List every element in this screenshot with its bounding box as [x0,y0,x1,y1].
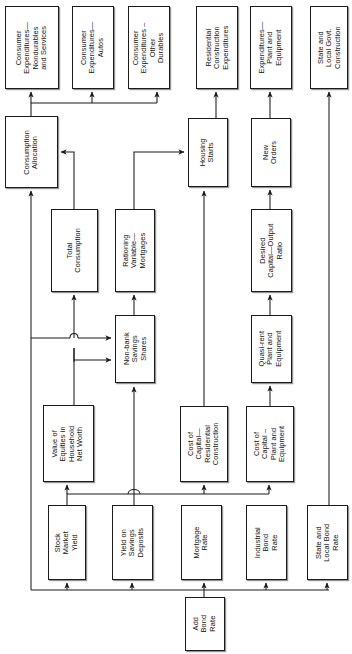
node-label-value_eq: Value of Equities in Household Net Worth [52,425,86,461]
node-res_constr[interactable]: Residential Construction Expenditures [196,6,238,89]
node-label-ind_bond: Industrial Bond Rate [254,527,279,558]
node-housing[interactable]: Housing Starts [188,118,228,187]
node-label-cons_autos: Consumer Expenditures— Autos [80,22,105,74]
node-value_eq[interactable]: Value of Equities in Household Net Worth [43,405,94,482]
wire-bus-hop-arc [128,490,140,495]
node-label-rationing: Rationing Variable— Mortgages [122,233,147,269]
node-label-state_constr: State and Local Govt. Construction [316,26,341,69]
flowchart-canvas: Consumer Expenditures— Nondurables and S… [0,0,352,654]
node-label-res_constr: Residential Construction Expenditures [204,25,229,69]
node-label-coc_res: Cost of Capital— Residential Constructio… [187,423,221,466]
node-quasi_rent[interactable]: Quasi-rent Plant and Equipment [251,315,292,383]
wire-consalloc-bus [31,103,157,116]
node-yield_sav[interactable]: Yield on Savings Deposits [112,505,153,580]
node-cons_other[interactable]: Consumer Expenditures – Other Durables [128,6,170,89]
node-new_orders[interactable]: New Orders [251,118,291,187]
node-label-stock_yield: Stock Market Yield [54,531,79,554]
wire-stockyield-bus [67,494,269,505]
node-cons_nondur[interactable]: Consumer Expenditures— Nondurables and S… [5,6,59,89]
node-state_bond[interactable]: State and Local Bond Rate [307,505,348,580]
node-label-coc_plant: Cost of Capital – Plant and Equipment [253,426,287,462]
node-label-nonbank: Non-bank Savings Shares [122,333,147,366]
node-label-housing: Housing Starts [200,139,217,167]
node-label-cons_alloc: Consumption Allocation [23,130,40,175]
node-total_cons[interactable]: Total Consumption [51,209,98,292]
node-label-quasi_rent: Quasi-rent Plant and Equipment [259,331,284,367]
node-rationing[interactable]: Rationing Variable— Mortgages [115,209,155,292]
node-cons_alloc[interactable]: Consumption Allocation [5,116,58,188]
node-label-exp_plant: Expenditures— Plant and Equipment [258,22,283,74]
node-coc_res[interactable]: Cost of Capital— Residential Constructio… [180,406,228,482]
wire-rationing-to-housing [134,152,184,209]
node-label-cons_other: Consumer Expenditures – Other Durables [132,22,166,73]
node-add_bond[interactable]: Add Bond Rate [185,597,225,651]
node-state_constr[interactable]: State and Local Govt. Construction [310,6,348,89]
node-label-new_orders: New Orders [263,141,280,164]
node-desired_cor[interactable]: Desired Capital—Output Ratio [251,209,292,292]
node-label-yield_sav: Yield on Savings Deposits [120,528,145,558]
node-stock_yield[interactable]: Stock Market Yield [48,505,86,580]
node-label-add_bond: Add Bond Rate [192,615,217,633]
wire-totalcons-to-consalloc [61,152,74,209]
node-exp_plant[interactable]: Expenditures— Plant and Equipment [250,6,292,89]
node-label-desired_cor: Desired Capital—Output Ratio [259,224,284,278]
node-label-total_cons: Total Consumption [66,228,83,273]
node-nonbank[interactable]: Non-bank Savings Shares [115,315,155,383]
node-cons_autos[interactable]: Consumer Expenditures— Autos [72,6,114,89]
wire-hop-arc [70,334,78,339]
node-ind_bond[interactable]: Industrial Bond Rate [246,505,287,580]
node-label-cons_nondur: Consumer Expenditures— Nondurables and S… [15,22,49,74]
node-label-state_bond: State and Local Bond Rate [315,524,340,562]
node-mortgage[interactable]: Mortgage Rate [181,505,222,580]
node-coc_plant[interactable]: Cost of Capital – Plant and Equipment [246,406,294,482]
node-label-mortgage: Mortgage Rate [193,526,210,558]
